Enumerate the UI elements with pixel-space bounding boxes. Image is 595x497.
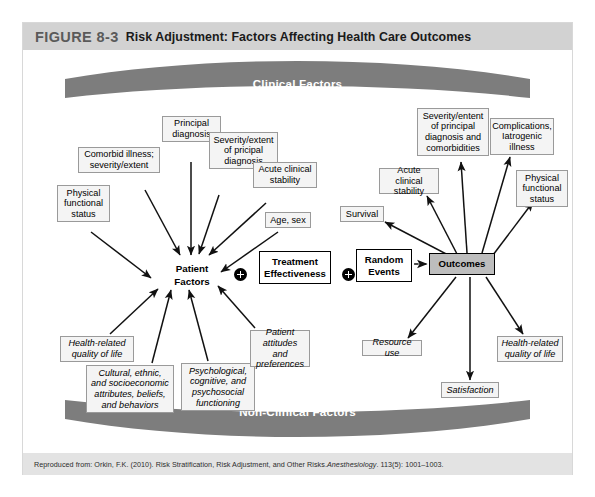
- citation-footer: Reproduced from: Orkin, F.K. (2010). Ris…: [23, 453, 572, 475]
- label-acute-clinical-stability[interactable]: Acute clinical stability: [253, 162, 317, 188]
- label-severity-extent-diagnosis-comorbidities[interactable]: Severity/entent of principal diagnosis a…: [417, 108, 489, 156]
- patient-factors-line-2: Factors: [174, 275, 209, 288]
- node-treatment-effectiveness[interactable]: Treatment Effectiveness: [259, 251, 331, 284]
- plus-icon-two: [342, 268, 355, 281]
- figure-title: Risk Adjustment: Factors Affecting Healt…: [126, 30, 471, 44]
- figure-container: FIGURE 8-3 Risk Adjustment: Factors Affe…: [0, 0, 595, 497]
- figure-title-bar: FIGURE 8-3 Risk Adjustment: Factors Affe…: [23, 23, 572, 50]
- label-health-related-quality-of-life-outcome[interactable]: Health-related quality of life: [497, 336, 563, 362]
- node-random-events[interactable]: Random Events: [356, 249, 412, 282]
- diagram-canvas: Clinical Factors Non-Clinical Factors Pr…: [23, 50, 572, 453]
- label-cultural-ethnic-socioeconomic[interactable]: Cultural, ethnic, and socioeconomic attr…: [86, 365, 174, 413]
- clinical-factors-banner: [65, 61, 530, 98]
- node-patient-factors[interactable]: Patient Factors: [163, 255, 221, 295]
- citation-prefix: Reproduced from: Orkin, F.K. (2010). Ris…: [34, 460, 327, 469]
- label-resource-use[interactable]: Resource use: [362, 340, 422, 356]
- label-health-related-quality-of-life[interactable]: Health-related quality of life: [60, 336, 134, 362]
- label-complications-iatrogenic-illness[interactable]: Complications, Iatrogenic illness: [490, 118, 554, 155]
- citation-journal: Anesthesiology: [327, 460, 376, 469]
- label-survival[interactable]: Survival: [340, 206, 384, 222]
- label-psychological-cognitive-psychosocial[interactable]: Psychological, cognitive, and psychosoci…: [181, 363, 255, 411]
- citation-suffix: . 113(5): 1001–1003.: [376, 460, 443, 469]
- label-comorbid-illness[interactable]: Comorbid illness; severity/extent: [78, 147, 160, 173]
- plus-icon-one: [234, 268, 247, 281]
- label-physical-functional-status[interactable]: Physical functional status: [57, 185, 110, 222]
- label-patient-attitudes-preferences[interactable]: Patient attitudes and preferences: [250, 330, 310, 367]
- node-outcomes[interactable]: Outcomes: [429, 253, 495, 275]
- label-physical-functional-status-outcome[interactable]: Physical functional status: [516, 170, 568, 207]
- patient-factors-line-1: Patient: [176, 262, 209, 275]
- figure-number: FIGURE 8-3: [35, 29, 119, 45]
- label-age-sex[interactable]: Age, sex: [265, 212, 311, 228]
- label-acute-clinical-stability-outcome[interactable]: Acute clinical stability: [379, 168, 439, 194]
- label-satisfaction[interactable]: Satisfaction: [441, 382, 499, 398]
